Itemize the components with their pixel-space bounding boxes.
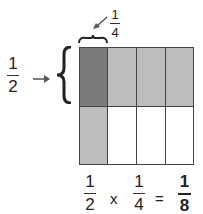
- cell-empty: [166, 107, 193, 164]
- cell-row-shade: [137, 48, 166, 107]
- denominator: 2: [8, 78, 17, 96]
- equation-result: 1 8: [178, 173, 191, 214]
- equation-fraction-a: 1 2: [84, 173, 96, 214]
- left-arrow-icon: [33, 69, 51, 87]
- numerator: 1: [85, 173, 94, 191]
- multiply-sign: x: [110, 190, 118, 207]
- cell-row-shade: [108, 48, 137, 107]
- denominator: 2: [85, 196, 94, 214]
- numerator: 1: [8, 55, 17, 73]
- cell-row-shade: [166, 48, 193, 107]
- numerator: 1: [111, 8, 118, 21]
- top-fraction: 1 4: [110, 8, 120, 39]
- denominator: 4: [111, 26, 118, 39]
- cell-empty: [137, 107, 166, 164]
- cell-overlap: [80, 48, 108, 107]
- numerator: 1: [134, 173, 143, 191]
- fraction-grid: [79, 47, 194, 165]
- denominator: 8: [180, 197, 189, 214]
- cell-empty: [108, 107, 137, 164]
- top-arrow-icon: [92, 16, 108, 34]
- numerator: 1: [180, 173, 189, 191]
- left-brace: [55, 46, 73, 108]
- denominator: 4: [134, 196, 143, 214]
- equals-sign: =: [155, 190, 164, 207]
- equation-fraction-b: 1 4: [133, 173, 145, 214]
- left-fraction: 1 2: [7, 55, 19, 96]
- cell-col-shade: [80, 107, 108, 164]
